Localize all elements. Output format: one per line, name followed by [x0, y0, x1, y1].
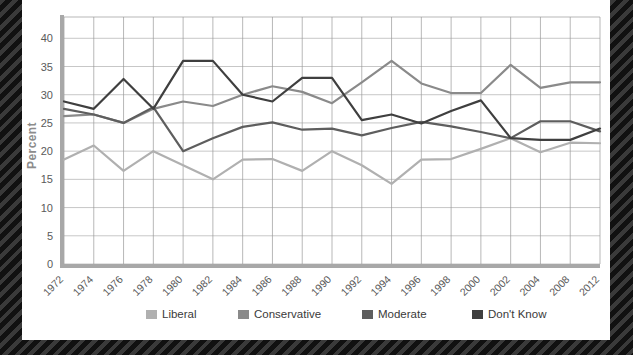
y-tick-label: 10: [41, 202, 53, 214]
x-tick-label: 1988: [279, 273, 304, 298]
x-tick-label: 1992: [338, 273, 363, 298]
chart-card: 0510152025303540 19721974197619781980198…: [22, 0, 610, 340]
chart-legend: LiberalConservativeModerateDon't Know: [146, 308, 547, 320]
x-tick-label: 1974: [70, 273, 95, 298]
legend-label-liberal: Liberal: [162, 308, 197, 320]
y-tick-labels: 0510152025303540: [41, 32, 53, 270]
x-tick-label: 1976: [100, 273, 125, 298]
x-tick-label: 2004: [517, 273, 542, 298]
legend-label-conservative: Conservative: [254, 308, 321, 320]
y-tick-label: 25: [41, 117, 53, 129]
x-tick-label: 2012: [576, 273, 601, 298]
x-tick-label: 2008: [547, 273, 572, 298]
legend-swatch-don-t-know: [472, 310, 483, 319]
y-tick-label: 0: [47, 258, 53, 270]
x-tick-label: 1982: [189, 273, 214, 298]
x-tick-label: 1994: [368, 273, 393, 298]
line-chart: 0510152025303540 19721974197619781980198…: [22, 0, 610, 340]
x-tick-label: 1972: [40, 273, 65, 298]
x-tick-label: 1998: [428, 273, 453, 298]
y-tick-label: 35: [41, 61, 53, 73]
y-tick-label: 5: [47, 230, 53, 242]
x-tick-label: 1990: [308, 273, 333, 298]
axis-spines: [60, 15, 600, 266]
y-tick-label: 15: [41, 173, 53, 185]
x-tick-label: 1986: [249, 273, 274, 298]
y-tick-label: 40: [41, 32, 53, 44]
grid-layer: [64, 17, 600, 264]
x-tick-label: 1996: [398, 273, 423, 298]
legend-swatch-conservative: [238, 310, 249, 319]
y-tick-label: 20: [41, 145, 53, 157]
y-axis-title-text: Percent: [25, 122, 39, 169]
y-axis-title: Percent: [25, 122, 39, 169]
legend-label-moderate: Moderate: [378, 308, 427, 320]
x-tick-label: 1980: [160, 273, 185, 298]
x-tick-label: 1984: [219, 273, 244, 298]
x-tick-label: 2000: [457, 273, 482, 298]
chart-canvas: 0510152025303540 19721974197619781980198…: [22, 0, 610, 340]
y-tick-label: 30: [41, 89, 53, 101]
x-tick-labels: 1972197419761978198019821984198619881990…: [40, 273, 601, 298]
x-tick-label: 2002: [487, 273, 512, 298]
legend-swatch-liberal: [146, 310, 157, 319]
legend-label-don-t-know: Don't Know: [488, 308, 547, 320]
legend-swatch-moderate: [362, 310, 373, 319]
x-tick-label: 1978: [130, 273, 155, 298]
